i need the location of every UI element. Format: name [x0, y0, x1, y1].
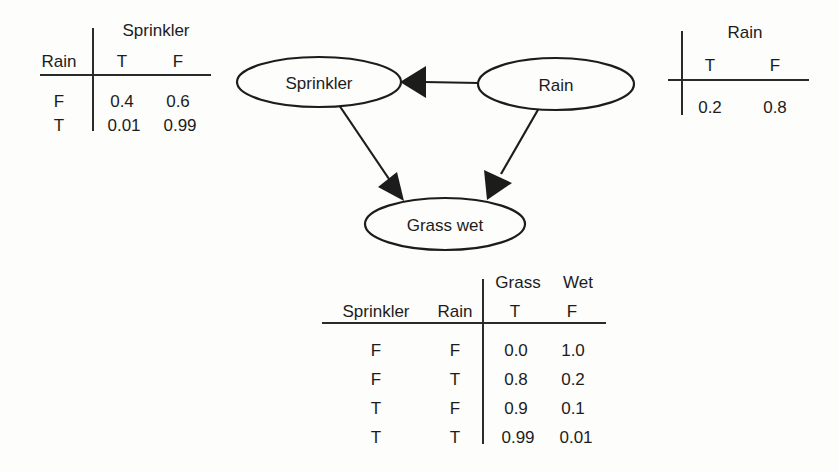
- grass-cpt-row0-rain: F: [450, 342, 460, 359]
- rain-cpt-title: Rain: [728, 24, 763, 41]
- sprinkler-cpt-row1-t: 0.01: [107, 117, 140, 134]
- sprinkler-cpt-col-f: F: [173, 53, 183, 70]
- edge-sprinkler-to-grass-shaft: [339, 105, 389, 179]
- node-sprinkler-label[interactable]: Sprinkler: [285, 75, 352, 92]
- grass-cpt-row0-f: 1.0: [561, 342, 585, 359]
- rain-cpt-row0-t: 0.2: [698, 99, 722, 116]
- sprinkler-cpt-parent-header: Rain: [42, 53, 77, 70]
- grass-cpt-row2-t: 0.9: [504, 400, 528, 417]
- edge-rain-to-sprinkler-shaft: [424, 82, 479, 83]
- grass-cpt-row3-t: 0.99: [501, 429, 534, 446]
- node-rain-label[interactable]: Rain: [539, 77, 574, 94]
- grass-cpt-row1-t: 0.8: [504, 371, 528, 388]
- rain-cpt-col-f: F: [770, 57, 780, 74]
- rain-cpt-row0-f: 0.8: [763, 99, 787, 116]
- sprinkler-cpt-vertical-rule: [92, 28, 94, 131]
- grass-cpt-row2-sprinkler: T: [371, 400, 381, 417]
- grass-cpt-title-left: Grass: [495, 274, 540, 291]
- sprinkler-cpt-row0-parent: F: [54, 93, 64, 110]
- grass-cpt-title-right: Wet: [563, 274, 593, 291]
- sprinkler-cpt-horizontal-rule: [40, 74, 211, 76]
- arrowhead-rain-to-sprinkler-icon: [400, 66, 426, 98]
- grass-cpt-row2-f: 0.1: [561, 400, 585, 417]
- grass-cpt-parent-header-rain: Rain: [438, 303, 473, 320]
- rain-cpt-vertical-rule: [681, 31, 683, 115]
- grass-cpt-row1-rain: T: [450, 371, 460, 388]
- arrowhead-sprinkler-to-grass-icon: [378, 172, 404, 201]
- grass-cpt-col-t: T: [510, 303, 520, 320]
- sprinkler-cpt-row1-f: 0.99: [163, 117, 196, 134]
- grass-cpt-col-f: F: [567, 303, 577, 320]
- grass-cpt-row0-t: 0.0: [504, 342, 528, 359]
- sprinkler-cpt-row0-t: 0.4: [110, 93, 134, 110]
- grass-cpt-row0-sprinkler: F: [371, 342, 381, 359]
- grass-cpt-row1-f: 0.2: [561, 371, 585, 388]
- sprinkler-cpt-col-t: T: [117, 53, 127, 70]
- grass-cpt-horizontal-rule: [322, 322, 606, 324]
- figure-canvas: Sprinkler Rain T F F 0.4 0.6 T 0.01 0.99…: [0, 0, 839, 472]
- grass-cpt-row3-f: 0.01: [559, 429, 592, 446]
- grass-cpt-vertical-rule: [482, 279, 484, 444]
- grass-cpt-row3-sprinkler: T: [371, 429, 381, 446]
- grass-cpt-row3-rain: T: [450, 429, 460, 446]
- arrowhead-rain-to-grass-icon: [484, 170, 512, 200]
- grass-cpt-row1-sprinkler: F: [371, 371, 381, 388]
- sprinkler-cpt-row1-parent: T: [54, 117, 64, 134]
- grass-cpt-row2-rain: F: [450, 400, 460, 417]
- sprinkler-cpt-title: Sprinkler: [122, 22, 189, 39]
- grass-cpt-parent-header-sprinkler: Sprinkler: [342, 303, 409, 320]
- sprinkler-cpt-row0-f: 0.6: [166, 93, 190, 110]
- rain-cpt-horizontal-rule: [668, 79, 809, 81]
- node-grass-wet-label[interactable]: Grass wet: [407, 217, 484, 234]
- edge-rain-to-grass-shaft: [501, 108, 539, 174]
- rain-cpt-col-t: T: [705, 57, 715, 74]
